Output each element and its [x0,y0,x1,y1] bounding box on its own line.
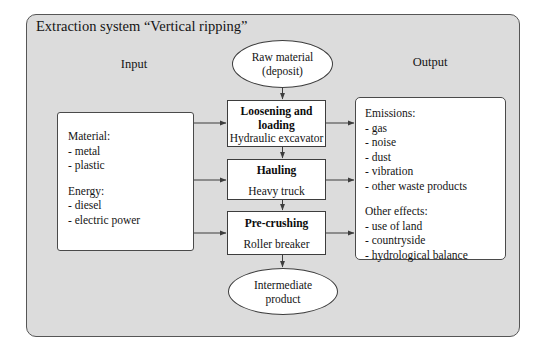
process-equipment: Roller breaker [228,238,325,252]
list-item: - plastic [68,158,193,173]
output-group-emissions-heading: Emissions: [365,106,505,121]
list-item: - use of land [365,219,505,234]
output-group-spacer [365,193,505,204]
output-group-other-effects-heading: Other effects: [365,204,505,219]
input-group-energy: Energy: - diesel - electric power [68,184,193,228]
list-item: - other waste products [365,179,505,194]
intermediate-product-line-2: product [265,292,300,306]
node-intermediate-product: Intermediate product [228,268,338,315]
process-title: Pre-crushing [228,217,325,231]
list-item: - hydrological balance [365,248,505,263]
intermediate-product-line-1: Intermediate [254,278,312,292]
raw-material-line-1: Raw material [252,50,314,64]
list-item: - electric power [68,213,193,228]
diagram-canvas: Extraction system “Vertical ripping” Inp… [0,0,541,355]
raw-material-line-2: (deposit) [262,64,303,78]
process-title-line-1: Loosening and [228,105,325,119]
diagram-title: Extraction system “Vertical ripping” [36,18,247,35]
node-raw-material: Raw material (deposit) [232,40,333,88]
list-item: - gas [365,121,505,136]
list-item: - noise [365,135,505,150]
process-equipment: Hydraulic excavator [228,132,325,146]
process-hauling: Hauling Heavy truck [227,159,326,200]
process-title-line-2: loading [228,119,325,133]
output-group-other-effects: Other effects: - use of land - countrysi… [365,204,505,262]
list-item: - metal [68,144,193,159]
list-item: - vibration [365,164,505,179]
process-title: Hauling [228,164,325,178]
input-group-material-heading: Material: [68,129,193,144]
column-header-input: Input [92,57,176,72]
process-pre-crushing: Pre-crushing Roller breaker [227,211,326,255]
input-materials-box: Material: - metal - plastic Energy: - di… [57,112,194,251]
list-item: - dust [365,150,505,165]
input-group-spacer [68,173,193,184]
column-header-output: Output [388,55,472,70]
list-item: - countryside [365,233,505,248]
output-group-emissions: Emissions: - gas - noise - dust - vibrat… [365,106,505,193]
process-equipment: Heavy truck [228,185,325,199]
input-group-energy-heading: Energy: [68,184,193,199]
input-group-material: Material: - metal - plastic [68,129,193,173]
output-effects-box: Emissions: - gas - noise - dust - vibrat… [355,97,506,260]
process-loosening-and-loading: Loosening and loading Hydraulic excavato… [227,100,326,147]
list-item: - diesel [68,198,193,213]
